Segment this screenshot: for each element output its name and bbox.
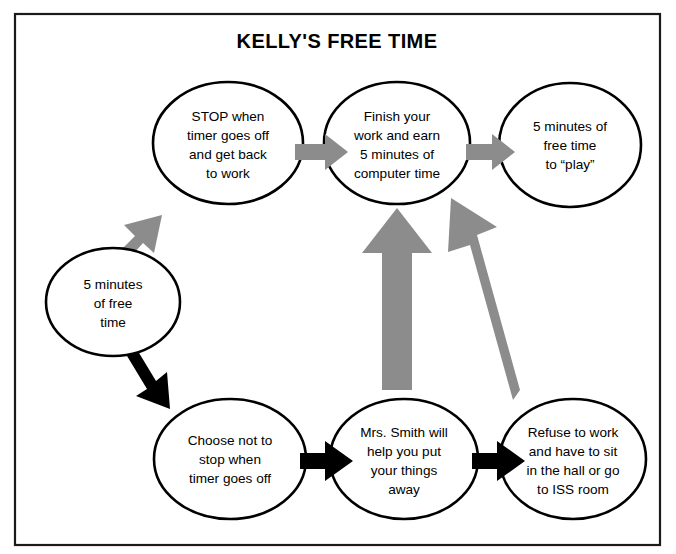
arrow-smith-to-finish [362,208,432,390]
node-line: computer time [354,166,440,181]
node-line: timer goes off [189,471,271,486]
node-line: 5 minutes of [360,147,434,162]
node-line: free time [544,138,597,153]
node-mrs-smith-helps[interactable]: Mrs. Smith will help you put your things… [330,399,478,519]
node-line: STOP when [192,109,265,124]
node-line: to work [206,166,250,181]
node-line: and have to sit [529,444,618,459]
node-start[interactable]: 5 minutes of free time [46,248,180,356]
page-title: KELLY'S FREE TIME [237,30,438,52]
node-line: 5 minutes [84,277,143,292]
node-line: time [100,315,126,330]
node-line: away [388,482,420,497]
node-choose-not-to-stop[interactable]: Choose not to stop when timer goes off [154,399,306,519]
node-line: Finish your [364,109,431,124]
arrow-refuse-to-finish [448,198,520,400]
node-line: Mrs. Smith will [360,425,448,440]
node-line: help you put [367,444,441,459]
node-line: in the hall or go [527,463,620,478]
node-line: Refuse to work [528,425,619,440]
flowchart-svg: KELLY'S FREE TIME STOP when timer goes o… [0,0,676,554]
node-line: and get back [189,147,267,162]
node-line: your things [371,463,438,478]
node-stop-when-timer[interactable]: STOP when timer goes off and get back to… [153,82,303,204]
node-line: timer goes off [187,128,269,143]
node-line: to “play” [545,157,595,172]
diagram-canvas: KELLY'S FREE TIME STOP when timer goes o… [0,0,676,554]
node-finish-work[interactable]: Finish your work and earn 5 minutes of c… [324,82,470,204]
node-line: Choose not to [188,433,273,448]
node-free-time-play[interactable]: 5 minutes of free time to “play” [499,83,641,207]
node-line: 5 minutes of [533,119,607,134]
node-line: work and earn [353,128,440,143]
node-line: stop when [199,452,261,467]
node-line: of free [94,296,133,311]
node-line: to ISS room [537,482,609,497]
